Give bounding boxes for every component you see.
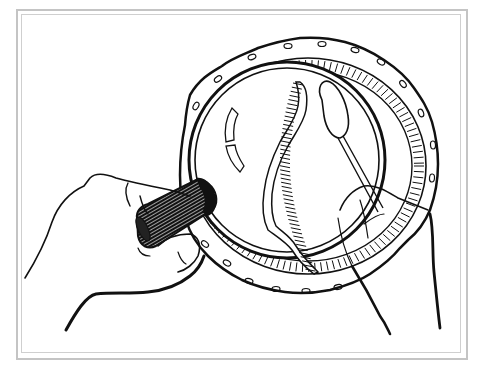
- magnifier-handle: [133, 178, 216, 248]
- illustration: [0, 0, 481, 375]
- magnifying-glass: [133, 62, 385, 274]
